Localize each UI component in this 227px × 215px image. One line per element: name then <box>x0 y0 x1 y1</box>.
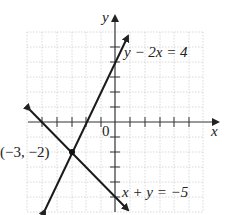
y-axis-label: y <box>100 9 109 25</box>
coordinate-plane: y x 0 y − 2x = 4 x + y = −5 (−3, −2) <box>0 0 227 215</box>
line-x-plus-y-eq-neg5 <box>30 110 128 210</box>
x-axis-label: x <box>210 123 218 139</box>
line2-label: x + y = −5 <box>121 184 189 200</box>
intersection-label: (−3, −2) <box>0 144 49 161</box>
origin-label: 0 <box>102 123 110 139</box>
line1-label: y − 2x = 4 <box>122 44 188 60</box>
intersection-point <box>69 149 75 155</box>
